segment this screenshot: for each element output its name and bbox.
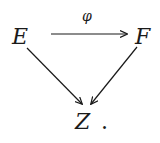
arrow-label-phi: φ xyxy=(82,8,92,24)
node-f: F xyxy=(134,24,151,49)
trailing-period: . xyxy=(101,109,108,134)
commutative-diagram: E F Z . φ xyxy=(0,0,160,143)
arrow-f-to-z xyxy=(91,47,137,104)
arrow-e-to-z xyxy=(27,48,82,104)
node-z: Z xyxy=(74,109,91,134)
node-e: E xyxy=(11,24,28,49)
